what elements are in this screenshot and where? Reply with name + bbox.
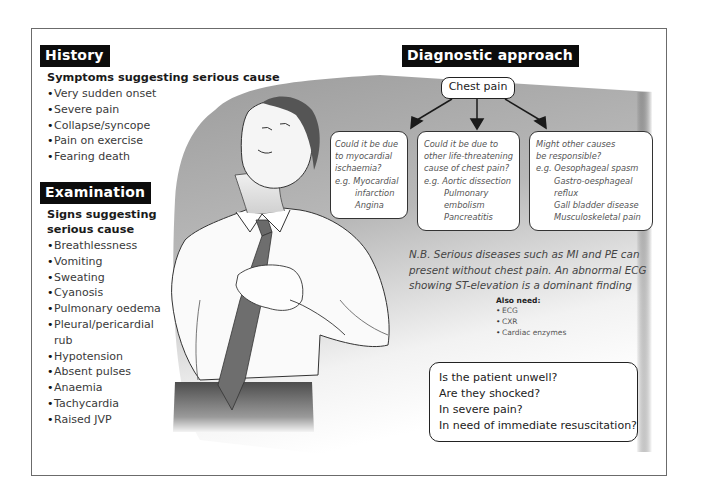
branch-line: be responsible? (536, 150, 648, 162)
question-line: Is the patient unwell? (439, 370, 631, 386)
branch-line: ischaemia? (335, 162, 403, 174)
branch-line: Might other causes (536, 138, 648, 150)
question-line: In need of immediate resuscitation? (439, 418, 631, 434)
branch-line: Could it be due (335, 138, 403, 150)
also-need-item: ECG (496, 305, 566, 316)
also-need-item: CXR (496, 316, 566, 327)
branch-line: other life-threatening (424, 150, 515, 162)
branch-example: Musculoskeletal pain (536, 211, 648, 223)
branch-life-threatening: Could it be due to other life-threatenin… (417, 131, 520, 231)
assessment-questions-box: Is the patient unwell? Are they shocked?… (429, 362, 638, 442)
branch-example: Gall bladder disease (536, 199, 648, 211)
branch-line: e.g. Aortic dissection (424, 175, 515, 187)
also-need-section: Also need: ECG CXR Cardiac enzymes (496, 296, 566, 339)
branch-example: Pulmonary (424, 187, 515, 199)
branch-example: Angina (335, 199, 403, 211)
nb-note-line: present without chest pain. An abnormal … (409, 263, 647, 279)
branch-example: Pancreatitis (424, 211, 515, 223)
branch-myocardial-ischaemia: Could it be due to myocardial ischaemia?… (330, 131, 408, 219)
branch-example: embolism (424, 199, 515, 211)
branch-line: e.g. Myocardial (335, 175, 403, 187)
branch-example: reflux (536, 187, 648, 199)
also-need-item: Cardiac enzymes (496, 327, 566, 338)
branch-line: e.g. Oesophageal spasm (536, 162, 648, 174)
also-need-title: Also need: (496, 296, 566, 305)
also-need-list: ECG CXR Cardiac enzymes (496, 305, 566, 339)
question-line: In severe pain? (439, 402, 631, 418)
nb-note-line: N.B. Serious diseases such as MI and PE … (409, 247, 647, 263)
branch-line: Could it be due to (424, 138, 515, 150)
arrow-head-center (471, 119, 483, 129)
branch-example: infarction (335, 187, 403, 199)
nb-note: N.B. Serious diseases such as MI and PE … (409, 247, 647, 294)
branch-line: cause of chest pain? (424, 162, 515, 174)
branch-example: Gastro-oesphageal (536, 175, 648, 187)
question-line: Are they shocked? (439, 386, 631, 402)
branch-other-causes: Might other causes be responsible? e.g. … (529, 131, 653, 231)
branch-line: to myocardial (335, 150, 403, 162)
nb-note-line: showing ST-elevation is a dominant findi… (409, 278, 647, 294)
